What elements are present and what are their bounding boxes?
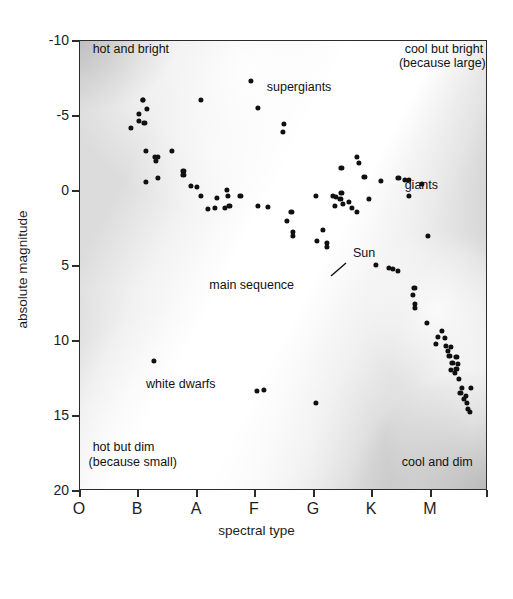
x-tick-mark — [137, 490, 139, 497]
data-point — [412, 285, 417, 290]
x-tick-label: M — [423, 500, 436, 518]
data-point — [226, 194, 231, 199]
data-point — [206, 206, 211, 211]
y-tick-mark — [72, 490, 79, 492]
annotation-because-small: (because small) — [89, 455, 177, 470]
data-point — [169, 149, 174, 154]
data-point — [442, 335, 447, 340]
data-point — [143, 179, 148, 184]
data-point — [373, 263, 378, 268]
data-point — [256, 105, 261, 110]
x-tick-mark — [79, 490, 81, 497]
annotation-cool-but-bright: cool but bright — [405, 42, 484, 57]
data-point — [290, 233, 295, 238]
annotation-hot-and-bright: hot and bright — [93, 42, 169, 57]
data-point — [249, 78, 254, 83]
data-point — [227, 203, 232, 208]
annotation-giants: giants — [405, 178, 438, 193]
data-point — [188, 183, 193, 188]
data-point — [181, 173, 186, 178]
annotation-hot-but-dim: hot but dim — [93, 440, 155, 455]
annotation-because-large: (because large) — [399, 56, 486, 71]
data-point — [439, 328, 444, 333]
data-point — [339, 191, 344, 196]
data-point — [339, 165, 344, 170]
data-point — [225, 188, 230, 193]
data-point — [450, 360, 455, 365]
data-point — [284, 218, 289, 223]
data-point — [424, 320, 429, 325]
data-point — [155, 176, 160, 181]
x-tick-mark — [486, 490, 488, 497]
data-point — [145, 106, 150, 111]
x-tick-label: K — [366, 500, 377, 518]
data-point — [313, 401, 318, 406]
y-tick-label: 5 — [29, 257, 69, 273]
data-point — [128, 125, 133, 130]
data-point — [366, 196, 371, 201]
x-tick-label: B — [132, 500, 143, 518]
data-point — [198, 98, 203, 103]
x-tick-mark — [430, 490, 432, 497]
data-point — [467, 409, 472, 414]
x-tick-label: F — [249, 500, 259, 518]
data-point — [412, 305, 417, 310]
data-point — [362, 174, 367, 179]
y-tick-label: -10 — [29, 32, 69, 48]
data-point — [212, 205, 217, 210]
data-point — [325, 244, 330, 249]
sun-leader-line — [80, 41, 487, 490]
data-point — [425, 233, 430, 238]
annotation-supergiants: supergiants — [267, 80, 332, 95]
data-point — [265, 204, 270, 209]
data-point — [434, 341, 439, 346]
data-point — [454, 354, 459, 359]
annotation-main-sequence: main sequence — [209, 278, 294, 293]
plot-area: hot and brightcool but bright(because la… — [79, 40, 487, 490]
data-point — [341, 201, 346, 206]
x-tick-label: O — [73, 500, 85, 518]
y-tick-label: 10 — [29, 332, 69, 348]
data-point — [280, 129, 285, 134]
y-tick-mark — [72, 265, 79, 267]
data-point — [254, 388, 259, 393]
y-tick-mark — [72, 40, 79, 42]
data-point — [143, 148, 148, 153]
y-tick-mark — [72, 115, 79, 117]
data-point — [261, 387, 266, 392]
background-wash — [80, 41, 486, 489]
data-point — [447, 353, 452, 358]
data-point — [468, 386, 473, 391]
data-point — [136, 118, 141, 123]
data-point — [194, 184, 199, 189]
x-tick-mark — [254, 490, 256, 497]
main-sequence-band — [80, 41, 486, 489]
y-tick-label: 15 — [29, 407, 69, 423]
data-point — [395, 268, 400, 273]
y-tick-label: 20 — [29, 482, 69, 498]
x-tick-mark — [313, 490, 315, 497]
data-point — [238, 194, 243, 199]
data-point — [256, 203, 261, 208]
data-point — [396, 176, 401, 181]
data-point — [151, 359, 156, 364]
y-tick-mark — [72, 340, 79, 342]
data-point — [214, 195, 219, 200]
data-point — [406, 194, 411, 199]
data-point — [313, 193, 318, 198]
data-point — [142, 120, 147, 125]
data-point — [349, 205, 354, 210]
x-tick-label: G — [307, 500, 319, 518]
data-point — [281, 122, 286, 127]
data-point — [141, 97, 146, 102]
y-tick-label: 0 — [29, 182, 69, 198]
data-point — [137, 111, 142, 116]
data-point — [289, 209, 294, 214]
hr-diagram-figure: -10 -5 0 5 10 15 20 O B A F G K M absolu… — [0, 0, 513, 599]
corner-shading — [80, 41, 486, 489]
annotation-white-dwarfs: white dwarfs — [146, 377, 215, 392]
x-tick-label: A — [191, 500, 202, 518]
y-tick-label: -5 — [29, 107, 69, 123]
x-tick-mark — [371, 490, 373, 497]
lower-right-band-wash — [80, 41, 486, 489]
